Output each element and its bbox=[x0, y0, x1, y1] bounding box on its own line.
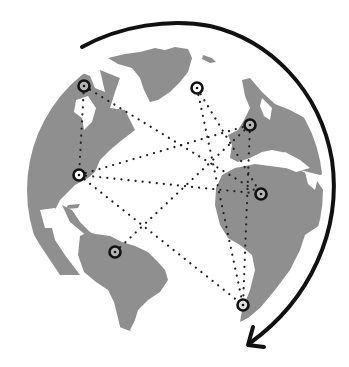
globe-illustration bbox=[0, 0, 349, 367]
caribbean bbox=[66, 204, 80, 209]
greenland bbox=[108, 47, 192, 102]
globe-svg bbox=[0, 0, 349, 367]
south-america bbox=[78, 232, 168, 344]
location-marker-africa-south bbox=[238, 300, 249, 311]
svalbard bbox=[202, 55, 216, 63]
location-marker-africa-central bbox=[256, 189, 267, 200]
location-marker-south-america bbox=[110, 247, 121, 258]
location-marker-europe bbox=[245, 120, 256, 131]
africa bbox=[215, 164, 334, 322]
location-marker-greenland-east bbox=[192, 83, 203, 94]
location-marker-north-america-north bbox=[79, 81, 90, 92]
location-marker-north-america-east bbox=[74, 170, 85, 181]
land-masses bbox=[20, 47, 334, 344]
